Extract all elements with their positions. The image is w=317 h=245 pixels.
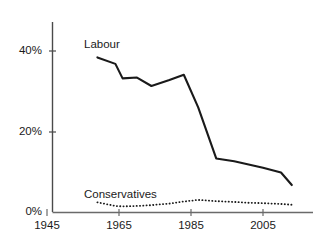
x-tick-label-1985: 1985 (168, 219, 214, 231)
conservatives-series-label: Conservatives (84, 188, 157, 200)
y-tick-label-20: 20% (8, 125, 42, 137)
line-chart: 40% 20% 0% 1945 1965 1985 2005 Labour Co… (0, 0, 317, 245)
x-tick-label-1965: 1965 (96, 219, 142, 231)
y-tick-label-0: 0% (8, 205, 42, 217)
x-tick-label-1945: 1945 (24, 219, 70, 231)
y-tick-label-40: 40% (8, 44, 42, 56)
series-line-labour (97, 57, 291, 185)
labour-series-label: Labour (84, 38, 120, 50)
plot-area (0, 0, 317, 245)
series-line-conservatives (97, 200, 291, 206)
x-tick-label-2005: 2005 (240, 219, 286, 231)
series-layer (97, 57, 291, 206)
